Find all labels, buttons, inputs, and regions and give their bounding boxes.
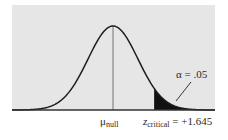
- normal-distribution-chart: α = .05 μnull zcritical = +1.645: [0, 0, 228, 140]
- mean-label: μnull: [100, 115, 119, 129]
- critical-value-label: zcritical = +1.645: [142, 115, 213, 129]
- alpha-label: α = .05: [176, 68, 208, 80]
- plot-background: [12, 5, 215, 110]
